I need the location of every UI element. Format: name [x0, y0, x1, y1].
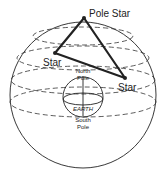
star-left-label: Star — [43, 57, 62, 68]
north-pole-label-line1: North — [76, 68, 91, 74]
north-pole-label-line2: Pole — [77, 75, 90, 81]
earth-label: EARTH — [73, 106, 94, 112]
star-right-label: Star — [118, 82, 137, 93]
south-pole-label-line2: Pole — [77, 124, 90, 130]
pole-star-label: Pole Star — [89, 8, 131, 19]
south-pole-label-line1: South — [75, 117, 91, 123]
celestial-sphere-diagram: Pole Star Star Star North Pole EARTH Sou… — [0, 0, 164, 178]
